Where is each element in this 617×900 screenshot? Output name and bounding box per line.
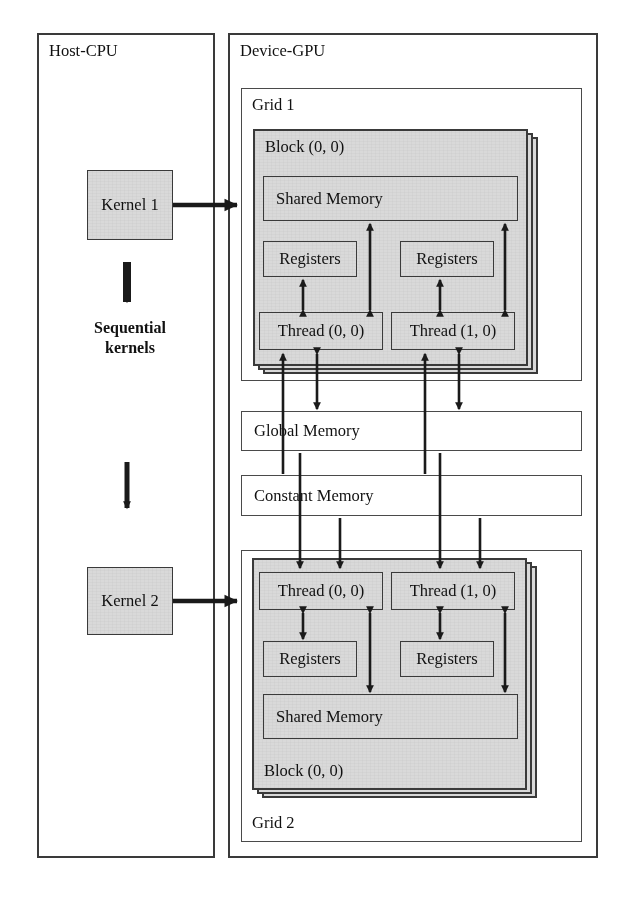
arrow-layer [0, 0, 617, 900]
diagram-canvas: Host-CPU Kernel 1 Sequential kernels Ker… [0, 0, 617, 900]
